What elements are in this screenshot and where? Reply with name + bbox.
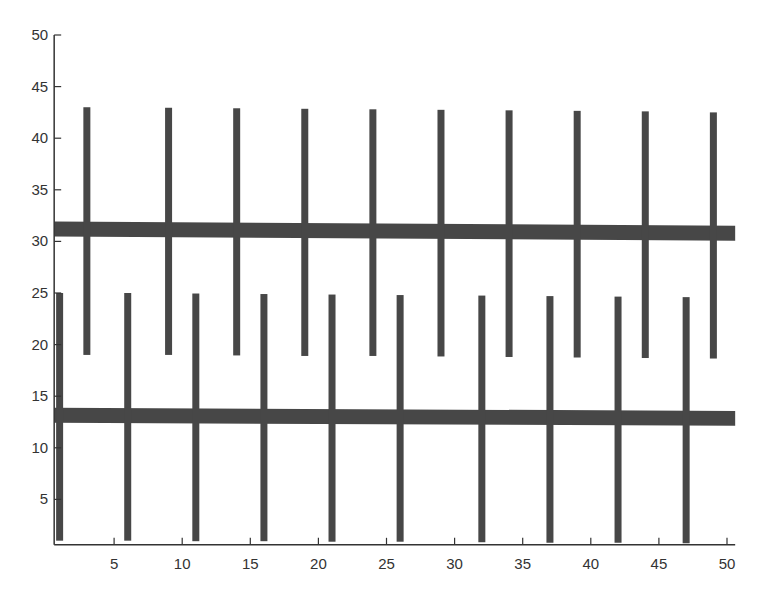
y-tick-label: 20 [31, 336, 48, 353]
x-tick-label: 30 [446, 555, 463, 572]
upper-vertical-bar-3 [233, 108, 240, 355]
y-tick-label: 40 [31, 129, 48, 146]
y-tick-label: 35 [31, 181, 48, 198]
lower-vertical-bar-8 [546, 296, 553, 543]
lower-band [54, 408, 735, 426]
lower-vertical-bar-9 [615, 297, 622, 543]
x-tick-label: 20 [310, 555, 327, 572]
lower-vertical-bar-10 [683, 297, 690, 543]
x-ticks: 5101520253035404550 [110, 538, 735, 572]
y-tick-label: 25 [31, 284, 48, 301]
lower-vertical-bar-7 [478, 296, 485, 543]
chart: 5101520253035404550 5101520253035404550 [0, 0, 758, 596]
upper-vertical-bar-5 [369, 109, 376, 356]
x-tick-label: 5 [110, 555, 118, 572]
y-tick-label: 30 [31, 232, 48, 249]
lower-vertical-bar-5 [329, 295, 336, 542]
vertical-bars [56, 107, 717, 543]
x-tick-label: 10 [174, 555, 191, 572]
lower-vertical-bar-1 [56, 293, 63, 541]
x-tick-label: 45 [651, 555, 668, 572]
upper-vertical-bar-8 [574, 111, 581, 358]
x-tick-label: 25 [378, 555, 395, 572]
upper-vertical-bar-9 [642, 111, 649, 358]
x-tick-label: 15 [242, 555, 259, 572]
lower-vertical-bar-6 [397, 295, 404, 542]
x-tick-label: 50 [719, 555, 736, 572]
lower-vertical-bar-3 [192, 294, 199, 542]
y-tick-label: 5 [40, 490, 48, 507]
lower-vertical-bar-4 [260, 294, 267, 541]
y-tick-label: 50 [31, 26, 48, 43]
upper-band [54, 222, 735, 241]
upper-vertical-bar-2 [165, 108, 172, 355]
lower-vertical-bar-2 [124, 293, 131, 541]
upper-vertical-bar-10 [710, 112, 717, 358]
upper-vertical-bar-1 [83, 107, 90, 355]
axes [54, 35, 735, 545]
x-tick-label: 40 [582, 555, 599, 572]
upper-vertical-bar-6 [437, 110, 444, 357]
y-tick-label: 15 [31, 387, 48, 404]
y-tick-label: 45 [31, 78, 48, 95]
y-tick-label: 10 [31, 439, 48, 456]
upper-vertical-bar-7 [506, 110, 513, 357]
x-tick-label: 35 [514, 555, 531, 572]
horizontal-bands [54, 222, 735, 426]
upper-vertical-bar-4 [301, 109, 308, 356]
